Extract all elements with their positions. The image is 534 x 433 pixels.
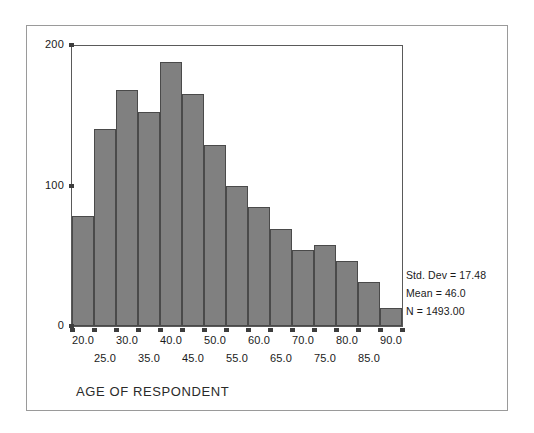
x-axis-tick-mark	[334, 328, 339, 332]
x-axis-tick-label: 50.0	[195, 334, 235, 346]
y-axis-tick-label: 100	[24, 179, 64, 191]
x-axis-tick-mark	[290, 328, 295, 332]
x-axis-tick-label: 70.0	[283, 334, 323, 346]
statistics-annotation: Std. Dev = 17.48 Mean = 46.0 N = 1493.00	[406, 266, 502, 320]
histogram-bar	[116, 90, 138, 326]
x-axis-tick-mark	[224, 328, 229, 332]
histogram-bar	[336, 261, 358, 326]
histogram-bar	[72, 216, 94, 326]
x-axis-tick-label: 80.0	[327, 334, 367, 346]
x-axis-tick-mark	[400, 328, 405, 332]
y-axis-tick-mark	[69, 184, 74, 188]
y-axis-tick-label: 0	[24, 319, 64, 331]
x-axis-tick-label: 25.0	[85, 352, 125, 364]
x-axis-tick-mark	[92, 328, 97, 332]
histogram-bar	[182, 94, 204, 326]
stat-n: N = 1493.00	[406, 302, 502, 320]
x-axis-tick-mark	[202, 328, 207, 332]
histogram-bar	[380, 308, 402, 326]
histogram-bar	[204, 145, 226, 326]
x-axis-tick-mark	[70, 328, 75, 332]
histogram-bar	[292, 250, 314, 326]
x-axis-tick-mark	[136, 328, 141, 332]
x-axis-tick-label: 20.0	[63, 334, 103, 346]
x-axis-tick-mark	[268, 328, 273, 332]
x-axis-tick-label: 85.0	[349, 352, 389, 364]
histogram-bar	[358, 282, 380, 326]
x-axis-title: AGE OF RESPONDENT	[76, 384, 229, 399]
histogram-bar	[270, 229, 292, 326]
histogram-bar	[248, 207, 270, 326]
x-axis-tick-label: 60.0	[239, 334, 279, 346]
x-axis-tick-label: 30.0	[107, 334, 147, 346]
histogram-bar	[314, 245, 336, 326]
x-axis-tick-label: 45.0	[173, 352, 213, 364]
x-axis-tick-label: 65.0	[261, 352, 301, 364]
x-axis-tick-mark	[180, 328, 185, 332]
x-axis-tick-label: 75.0	[305, 352, 345, 364]
stat-std-dev: Std. Dev = 17.48	[406, 266, 502, 284]
x-axis-tick-mark	[378, 328, 383, 332]
x-axis-tick-mark	[114, 328, 119, 332]
x-axis-tick-mark	[356, 328, 361, 332]
x-axis-tick-label: 90.0	[371, 334, 411, 346]
plot-frame-right-edge	[402, 45, 403, 327]
x-axis-tick-label: 55.0	[217, 352, 257, 364]
y-axis-tick-mark	[69, 43, 74, 47]
stat-mean: Mean = 46.0	[406, 284, 502, 302]
histogram-bar	[226, 186, 248, 327]
x-axis-tick-label: 40.0	[151, 334, 191, 346]
histogram-bar	[94, 129, 116, 326]
x-axis-tick-mark	[312, 328, 317, 332]
histogram-bar	[160, 62, 182, 326]
plot-area	[72, 45, 402, 326]
histogram-bar	[138, 112, 160, 326]
histogram-figure: 0100200 20.025.030.035.040.045.050.055.0…	[0, 0, 534, 433]
x-axis-tick-label: 35.0	[129, 352, 169, 364]
y-axis-tick-label: 200	[24, 38, 64, 50]
x-axis-line	[71, 326, 403, 327]
x-axis-tick-mark	[158, 328, 163, 332]
x-axis-tick-mark	[246, 328, 251, 332]
